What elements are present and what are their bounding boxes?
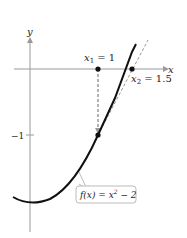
point-x2 <box>129 66 134 71</box>
x1-label: x1 = 1 <box>84 52 115 65</box>
y-axis-label: y <box>26 26 33 37</box>
newton-method-plot: x y −1 x1 = 1 x2 = 1.5 f(x) = x2 − 2 <box>0 0 187 238</box>
function-curve <box>13 44 136 203</box>
point-f-x1 <box>95 132 100 137</box>
x2-label: x2 = 1.5 <box>131 73 172 86</box>
point-x1 <box>95 66 100 71</box>
function-label: f(x) = x2 − 2 <box>79 188 137 200</box>
y-tick-label: −1 <box>11 131 24 141</box>
